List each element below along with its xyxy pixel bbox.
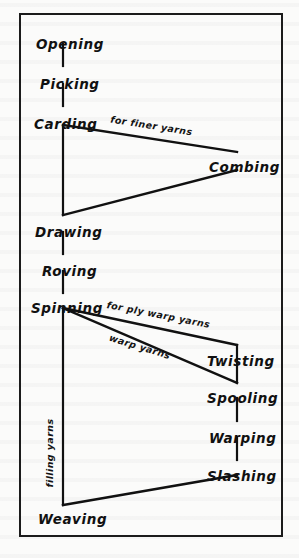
process-node-warping: Warping xyxy=(209,432,277,446)
process-node-picking: Picking xyxy=(40,78,100,92)
process-node-roving: Roving xyxy=(42,265,97,279)
process-node-weaving: Weaving xyxy=(38,513,107,527)
process-node-slashing: Slashing xyxy=(207,470,277,484)
process-node-carding: Carding xyxy=(34,118,97,132)
process-node-combing: Combing xyxy=(209,161,280,175)
process-node-twisting: Twisting xyxy=(207,355,275,369)
process-node-opening: Opening xyxy=(36,38,104,52)
connector-combing-drawing xyxy=(63,170,237,215)
edge-label-filling-yarns: filling yarns xyxy=(45,419,55,488)
process-node-spooling: Spooling xyxy=(207,392,278,406)
diagram-page: OpeningPickingCardingCombingDrawingRovin… xyxy=(0,0,299,558)
process-node-spinning: Spinning xyxy=(31,302,103,316)
process-node-drawing: Drawing xyxy=(35,226,103,240)
